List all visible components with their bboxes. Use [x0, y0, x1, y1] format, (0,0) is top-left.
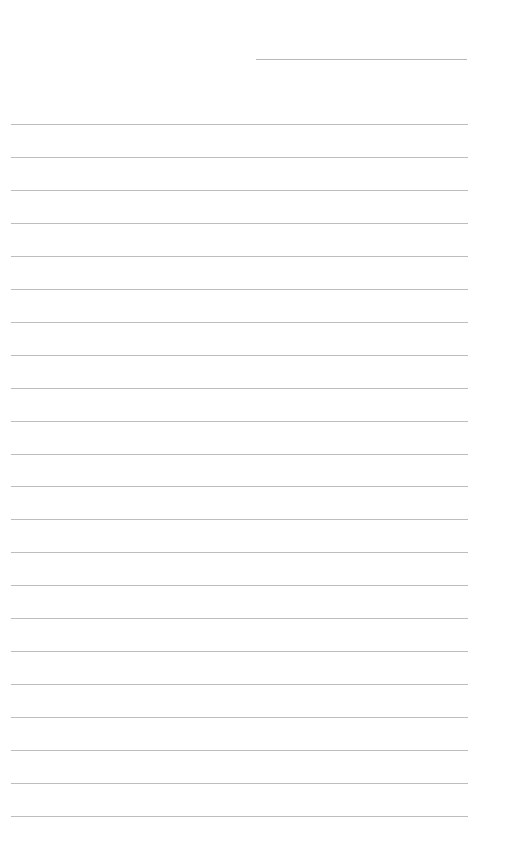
header-date-line [256, 59, 467, 60]
ruled-line [11, 816, 468, 817]
ruled-line [11, 750, 468, 751]
ruled-line [11, 289, 468, 290]
ruled-line [11, 618, 468, 619]
ruled-line [11, 585, 468, 586]
ruled-line [11, 519, 468, 520]
ruled-line [11, 717, 468, 718]
ruled-line [11, 256, 468, 257]
ruled-line [11, 190, 468, 191]
ruled-line [11, 651, 468, 652]
lined-paper-page [0, 0, 506, 856]
ruled-line [11, 421, 468, 422]
ruled-line [11, 388, 468, 389]
ruled-line [11, 684, 468, 685]
ruled-line [11, 322, 468, 323]
ruled-line [11, 223, 468, 224]
ruled-line [11, 454, 468, 455]
ruled-line [11, 486, 468, 487]
ruled-line [11, 355, 468, 356]
ruled-line [11, 157, 468, 158]
ruled-line [11, 783, 468, 784]
ruled-line [11, 552, 468, 553]
ruled-line [11, 124, 468, 125]
